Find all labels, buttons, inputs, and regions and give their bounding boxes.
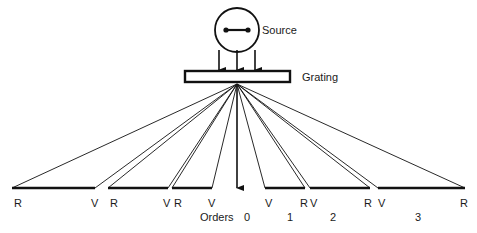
diagram-canvas — [0, 0, 477, 233]
order-number-2: 2 — [330, 212, 336, 223]
red-label-order-3-left: R — [14, 198, 22, 209]
diffracted-ray — [172, 84, 237, 188]
violet-label-order-1-left: V — [208, 198, 216, 209]
diffracted-ray — [12, 84, 237, 188]
diffracted-ray — [237, 84, 310, 188]
diffracted-ray — [237, 84, 378, 188]
red-label-order-1-right: R — [300, 198, 308, 209]
diffraction-grating-diagram: Source Grating Orders VRVRVRVRVRVR 0123 — [0, 0, 477, 233]
orders-label: Orders — [200, 212, 234, 223]
diffracted-ray-fan — [12, 84, 465, 188]
incident-beam-arrows — [219, 50, 255, 70]
red-label-order-3-right: R — [460, 198, 468, 209]
grating-label: Grating — [302, 72, 338, 83]
red-label-order-2-left: R — [110, 198, 118, 209]
violet-label-order-3-right: V — [378, 198, 386, 209]
diffracted-ray — [237, 84, 265, 188]
violet-label-order-2-left: V — [163, 198, 171, 209]
grating-plate — [185, 71, 290, 82]
violet-label-order-1-right: V — [265, 198, 273, 209]
order-number-1: 1 — [287, 212, 293, 223]
violet-label-order-2-right: V — [310, 198, 318, 209]
diffracted-ray — [108, 84, 237, 188]
violet-label-order-3-left: V — [91, 198, 99, 209]
source-lamp — [215, 8, 259, 52]
source-label: Source — [262, 25, 297, 36]
order-number-0: 0 — [244, 212, 250, 223]
red-label-order-2-right: R — [364, 198, 372, 209]
order-number-3: 3 — [415, 212, 421, 223]
red-label-order-1-left: R — [174, 198, 182, 209]
